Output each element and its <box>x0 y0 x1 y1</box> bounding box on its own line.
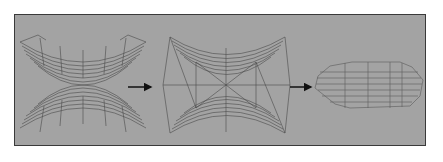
stage1-top-mesh <box>20 35 146 85</box>
mesh-diagram <box>0 0 443 162</box>
stage3-merged-mesh <box>315 62 423 108</box>
stage2-connected-mesh <box>163 37 290 133</box>
stage1-bottom-mesh <box>20 85 146 132</box>
